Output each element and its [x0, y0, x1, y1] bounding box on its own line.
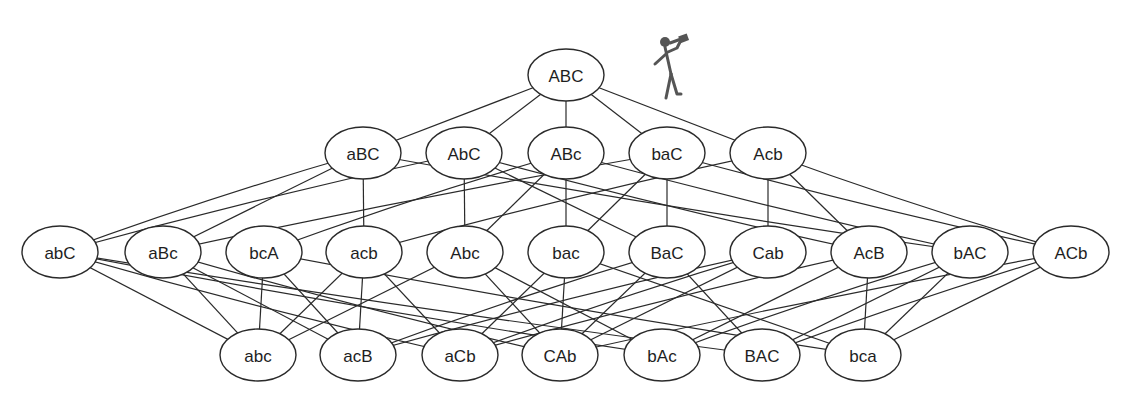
node-abC: abC — [22, 226, 98, 278]
node-ABc: ABc — [528, 127, 604, 179]
node-aBC: aBC — [325, 127, 401, 179]
node-label: acb — [350, 244, 377, 263]
node-label: aCb — [444, 347, 475, 366]
node-label: baC — [651, 145, 682, 164]
node-aCb: aCb — [422, 329, 498, 381]
node-ACb: ACb — [1033, 226, 1109, 278]
node-label: abC — [44, 244, 75, 263]
edge-aBC-abC — [60, 153, 363, 252]
node-label: bcA — [249, 244, 279, 263]
node-baC: baC — [629, 127, 705, 179]
edge-Acb-ACb — [768, 153, 1071, 252]
node-label: abc — [244, 347, 272, 366]
node-label: bac — [552, 244, 580, 263]
node-label: aBC — [346, 145, 379, 164]
node-ABC: ABC — [528, 49, 604, 101]
node-label: AcB — [853, 244, 884, 263]
node-label: aBc — [148, 244, 178, 263]
node-label: BAC — [745, 347, 780, 366]
node-label: Acb — [753, 145, 782, 164]
node-bcA: bcA — [226, 226, 302, 278]
node-Acb: Acb — [730, 127, 806, 179]
node-BaC: BaC — [629, 226, 705, 278]
node-label: ABC — [549, 67, 584, 86]
node-label: AbC — [447, 145, 480, 164]
node-label: ABc — [550, 145, 582, 164]
stick-figure-drinking-icon — [655, 33, 689, 98]
node-acB: acB — [320, 329, 396, 381]
node-Cab: Cab — [730, 226, 806, 278]
lattice-diagram: ABCaBCAbCABcbaCAcbabCaBcbcAacbAbcbacBaCC… — [0, 0, 1146, 406]
node-BAC: BAC — [724, 329, 800, 381]
node-AcB: AcB — [831, 226, 907, 278]
node-label: acB — [343, 347, 372, 366]
node-abc: abc — [220, 329, 296, 381]
node-label: Cab — [752, 244, 783, 263]
node-label: BaC — [650, 244, 683, 263]
node-label: ACb — [1054, 244, 1087, 263]
node-Abc: Abc — [427, 226, 503, 278]
node-bAC: bAC — [932, 226, 1008, 278]
node-CAb: CAb — [522, 329, 598, 381]
node-aBc: aBc — [125, 226, 201, 278]
node-bca: bca — [825, 329, 901, 381]
node-label: bAc — [647, 347, 677, 366]
node-label: Abc — [450, 244, 480, 263]
node-bac: bac — [528, 226, 604, 278]
node-label: bAC — [953, 244, 986, 263]
node-bAc: bAc — [624, 329, 700, 381]
node-label: bca — [849, 347, 877, 366]
edge-bAC-bAc — [662, 252, 970, 355]
node-AbC: AbC — [426, 127, 502, 179]
node-label: CAb — [543, 347, 576, 366]
node-acb: acb — [326, 226, 402, 278]
edges — [60, 75, 1071, 355]
